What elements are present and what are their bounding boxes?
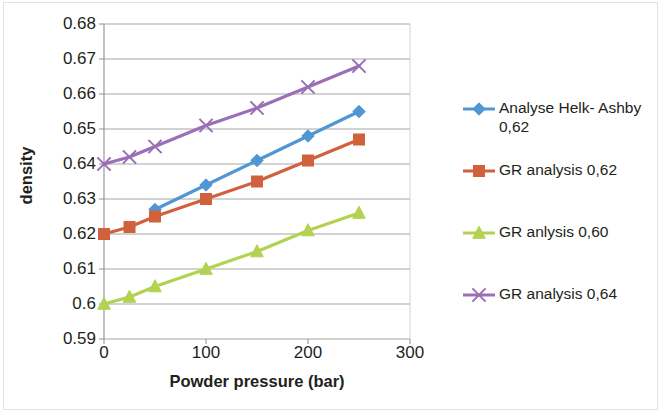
y-axis-tick-label: 0.6 [72, 295, 96, 312]
data-point-diamond [353, 105, 365, 117]
legend-label: Analyse Helk- Ashby 0,62 [499, 98, 641, 137]
legend-marker-triangle-icon [462, 223, 496, 243]
legend-item[interactable]: GR analysis 0,62 [462, 160, 617, 181]
series-line [104, 213, 359, 304]
y-axis-tick-label: 0.64 [63, 155, 96, 172]
y-axis-title: density [17, 121, 36, 231]
data-point-diamond [473, 103, 485, 115]
y-axis-tick-label: 0.65 [63, 120, 96, 137]
plot-canvas [104, 24, 410, 339]
y-axis-tick-label: 0.68 [63, 15, 96, 32]
data-point-square [124, 222, 135, 233]
x-axis-tick-label: 100 [176, 344, 236, 361]
x-axis-title: Powder pressure (bar) [104, 372, 410, 391]
legend-marker-diamond-icon [462, 99, 496, 119]
data-point-square [303, 155, 314, 166]
x-axis-tick-label: 300 [380, 344, 440, 361]
y-axis-tick-label: 0.66 [63, 85, 96, 102]
legend-marker-x-icon [462, 285, 496, 305]
data-point-diamond [302, 130, 314, 142]
data-point-square [354, 134, 365, 145]
data-point-square [99, 229, 110, 240]
plot-area [104, 24, 410, 339]
data-point-x [148, 140, 161, 153]
x-axis-tick-label: 200 [278, 344, 338, 361]
data-point-diamond [200, 179, 212, 191]
series-line [104, 66, 359, 164]
legend-label: GR anlysis 0,60 [499, 222, 608, 241]
legend-label: GR analysis 0,62 [499, 160, 617, 179]
legend-marker-square-icon [462, 161, 496, 181]
y-axis-tick-label: 0.67 [63, 50, 96, 67]
data-point-x [301, 80, 314, 93]
y-axis-tick-label: 0.61 [63, 260, 96, 277]
data-point-square [201, 194, 212, 205]
series-line [104, 140, 359, 235]
data-point-square [150, 211, 161, 222]
series-2 [98, 206, 366, 309]
data-point-triangle [353, 206, 366, 218]
chart-figure: density 0.590.60.610.620.630.640.650.660… [0, 0, 661, 413]
legend-item[interactable]: GR anlysis 0,60 [462, 222, 608, 243]
x-axis-tick-label: 0 [74, 344, 134, 361]
legend-label: GR analysis 0,64 [499, 284, 617, 303]
y-axis-tick-label: 0.62 [63, 225, 96, 242]
data-point-square [474, 166, 485, 177]
y-axis-tick-label: 0.63 [63, 190, 96, 207]
data-point-x [352, 59, 365, 72]
data-point-diamond [251, 154, 263, 166]
legend-item[interactable]: GR analysis 0,64 [462, 284, 617, 305]
data-point-square [252, 176, 263, 187]
legend-item[interactable]: Analyse Helk- Ashby 0,62 [462, 98, 641, 137]
